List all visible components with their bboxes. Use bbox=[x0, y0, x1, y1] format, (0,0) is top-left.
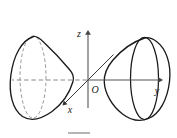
y-axis-label: y bbox=[154, 85, 160, 96]
x-axis-label: x bbox=[67, 104, 73, 115]
z-axis-label: z bbox=[76, 28, 81, 39]
origin-label: O bbox=[91, 84, 98, 95]
figure-container: z y x O bbox=[0, 0, 177, 138]
hyperboloid-two-sheets-diagram: z y x O bbox=[0, 0, 177, 138]
caption-strip bbox=[68, 132, 90, 134]
